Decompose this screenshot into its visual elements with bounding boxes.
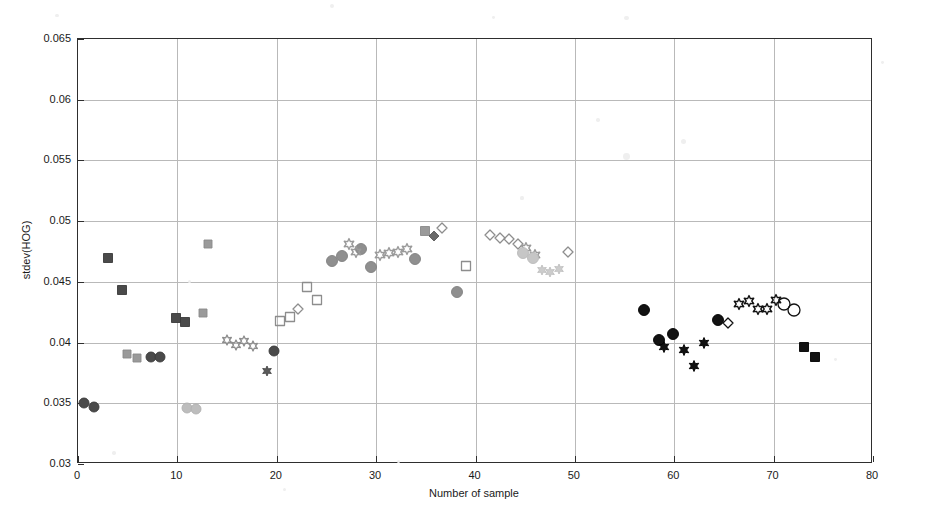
gridline-horizontal: [78, 282, 871, 283]
data-point: [399, 242, 414, 257]
scan-speck: [881, 61, 884, 64]
y-tick-label: 0.06: [50, 93, 71, 105]
x-tick-label: 50: [568, 469, 580, 481]
y-tick-mark: [78, 343, 84, 344]
data-point: [637, 302, 652, 317]
x-tick-mark: [674, 456, 675, 462]
y-tick-label: 0.055: [43, 153, 71, 165]
data-point: [115, 284, 128, 297]
scan-speck: [596, 118, 600, 122]
data-point: [310, 294, 323, 307]
data-point: [687, 358, 702, 373]
scan-speck: [55, 14, 58, 17]
data-point: [300, 280, 313, 293]
scan-speck: [623, 153, 630, 160]
data-point: [657, 340, 672, 355]
data-point: [202, 238, 214, 250]
data-point: [449, 284, 464, 299]
gridline-vertical: [277, 39, 278, 462]
scan-speck: [492, 16, 495, 19]
data-point: [197, 307, 209, 319]
data-point: [267, 344, 281, 358]
y-tick-label: 0.04: [50, 336, 71, 348]
gridline-horizontal: [78, 221, 871, 222]
data-point: [677, 342, 692, 357]
x-tick-mark: [575, 456, 576, 462]
gridline-horizontal: [78, 160, 871, 161]
chart-figure: stdev(HOG) Number of sample 0.030.0350.0…: [0, 0, 949, 521]
data-point: [87, 400, 101, 414]
data-point: [561, 245, 575, 259]
data-point: [349, 244, 364, 259]
scan-speck: [624, 16, 628, 20]
gridline-vertical: [774, 39, 775, 462]
y-tick-label: 0.065: [43, 32, 71, 44]
y-tick-mark: [78, 282, 84, 283]
y-tick-mark: [78, 100, 84, 101]
x-tick-label: 30: [369, 469, 381, 481]
y-tick-mark: [78, 221, 84, 222]
data-point: [427, 229, 441, 243]
gridline-vertical: [674, 39, 675, 462]
x-tick-mark: [873, 456, 874, 462]
plot-area: [77, 38, 872, 463]
x-tick-label: 70: [767, 469, 779, 481]
x-tick-label: 20: [270, 469, 282, 481]
data-point: [153, 350, 167, 364]
gridline-horizontal: [78, 343, 871, 344]
gridline-horizontal: [78, 100, 871, 101]
data-point: [786, 302, 802, 318]
data-point: [246, 339, 260, 353]
data-point: [131, 352, 143, 364]
scan-speck: [520, 196, 523, 199]
x-tick-mark: [78, 456, 79, 462]
x-tick-label: 40: [468, 469, 480, 481]
x-tick-label: 60: [667, 469, 679, 481]
data-point: [189, 402, 203, 416]
gridline-vertical: [575, 39, 576, 462]
x-tick-mark: [376, 456, 377, 462]
scan-speck: [283, 488, 286, 491]
y-tick-label: 0.05: [50, 214, 71, 226]
y-tick-label: 0.035: [43, 396, 71, 408]
x-tick-mark: [277, 456, 278, 462]
x-tick-label: 10: [170, 469, 182, 481]
data-point: [291, 302, 305, 316]
scan-speck: [834, 358, 837, 361]
y-tick-label: 0.045: [43, 275, 71, 287]
gridline-vertical: [177, 39, 178, 462]
scan-speck: [330, 4, 334, 8]
gridline-vertical: [476, 39, 477, 462]
data-point: [101, 251, 114, 264]
scan-speck: [397, 460, 400, 463]
x-tick-mark: [476, 456, 477, 462]
x-tick-mark: [774, 456, 775, 462]
y-tick-mark: [78, 39, 84, 40]
data-point: [809, 351, 822, 364]
x-axis-label: Number of sample: [429, 487, 519, 499]
y-tick-mark: [78, 160, 84, 161]
y-tick-mark: [78, 464, 84, 465]
x-tick-label: 0: [74, 469, 80, 481]
scan-speck: [112, 451, 116, 455]
y-axis-label: stdev(HOG): [20, 221, 32, 280]
data-point: [179, 315, 192, 328]
data-point: [260, 364, 274, 378]
data-point: [459, 260, 472, 273]
data-point: [697, 335, 712, 350]
data-point: [721, 316, 735, 330]
y-tick-label: 0.03: [50, 457, 71, 469]
data-point: [552, 262, 566, 276]
x-tick-mark: [177, 456, 178, 462]
x-tick-label: 80: [866, 469, 878, 481]
